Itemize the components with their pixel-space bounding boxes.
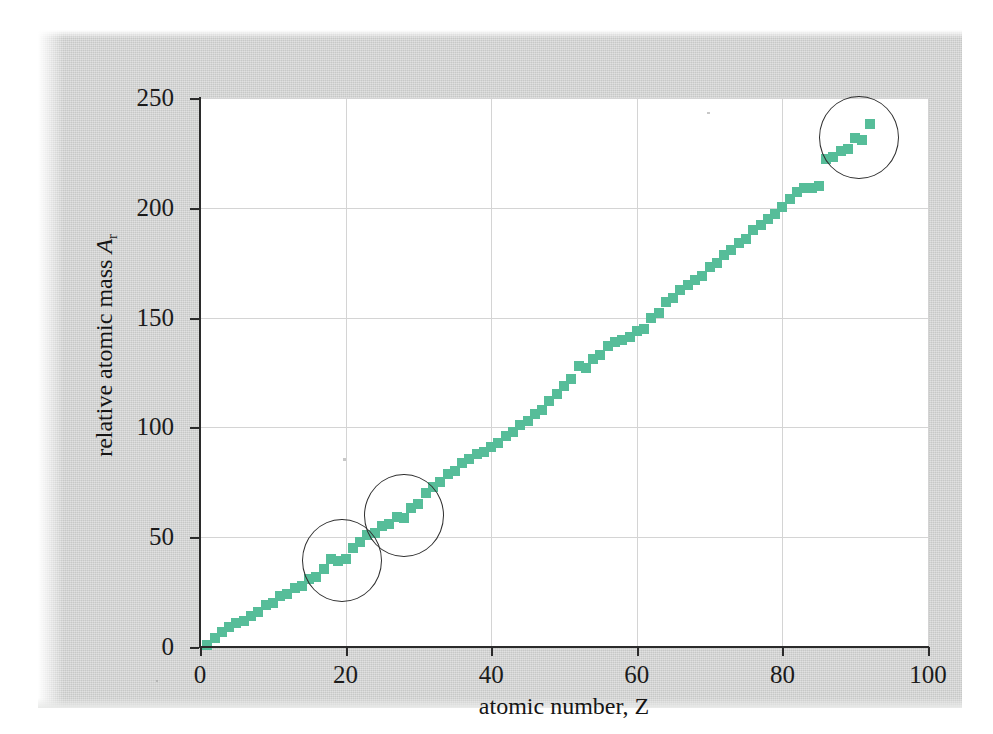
x-axis-tick [637, 647, 639, 656]
x-axis-tick [200, 647, 202, 656]
x-axis-tick [346, 647, 348, 656]
x-axis-tick-label: 80 [752, 662, 812, 687]
annotation-circles [200, 98, 928, 647]
x-axis-title: atomic number, Z [200, 693, 928, 720]
y-axis-tick [190, 647, 199, 649]
gridline-vertical [928, 98, 929, 647]
circle-protactinium-uranium [819, 96, 899, 179]
scan-speck [343, 458, 346, 461]
x-axis-tick [928, 647, 930, 656]
y-axis-tick-label: 200 [126, 195, 174, 220]
x-axis-tick-label: 100 [898, 662, 958, 687]
y-axis-tick-label: 100 [126, 414, 174, 439]
y-axis-tick [190, 98, 199, 100]
y-axis-tick [190, 537, 199, 539]
x-axis-tick-label: 0 [170, 662, 230, 687]
y-axis-title-symbol: A [91, 239, 117, 254]
y-axis-tick-label: 50 [126, 524, 174, 549]
y-axis-tick [190, 208, 199, 210]
panel-edge-fade-top [38, 30, 962, 38]
x-axis-tick [491, 647, 493, 656]
scan-speck [707, 112, 710, 114]
y-axis-title: relative atomic mass Ar [91, 85, 122, 605]
y-axis-tick [190, 318, 199, 320]
scan-speck [156, 680, 158, 682]
x-axis-tick-label: 20 [316, 662, 376, 687]
panel-edge-fade-left [38, 30, 64, 708]
figure-panel: 050100150200250 020406080100 atomic numb… [38, 30, 962, 708]
x-axis-tick-label: 40 [461, 662, 521, 687]
x-axis-line [199, 646, 929, 648]
y-axis-tick [190, 427, 199, 429]
y-axis-title-text: relative atomic mass [91, 254, 117, 457]
y-axis-line [199, 97, 201, 648]
x-axis-tick [782, 647, 784, 656]
y-axis-tick-label: 250 [126, 85, 174, 110]
y-axis-tick-label: 0 [126, 634, 174, 659]
y-axis-tick-label: 150 [126, 305, 174, 330]
circle-cobalt-nickel [364, 474, 444, 557]
plot-area [200, 98, 928, 647]
x-axis-tick-label: 60 [607, 662, 667, 687]
y-axis-title-subscript: r [104, 234, 120, 239]
